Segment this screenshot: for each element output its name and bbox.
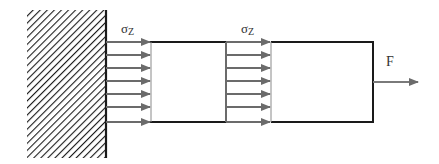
wall-hatching bbox=[27, 10, 106, 158]
stress-subscript: Z bbox=[128, 26, 134, 37]
stress-arrows-section-2 bbox=[226, 42, 271, 122]
stress-symbol: σ bbox=[241, 21, 248, 36]
diagram-canvas bbox=[0, 0, 439, 164]
stress-subscript: Z bbox=[248, 26, 254, 37]
stress-label-2: σZ bbox=[241, 22, 254, 35]
fixed-wall bbox=[27, 10, 106, 158]
stress-label-1: σZ bbox=[121, 22, 134, 35]
stress-arrows-section-1 bbox=[106, 42, 151, 122]
force-label: F bbox=[386, 55, 394, 69]
stress-symbol: σ bbox=[121, 21, 128, 36]
